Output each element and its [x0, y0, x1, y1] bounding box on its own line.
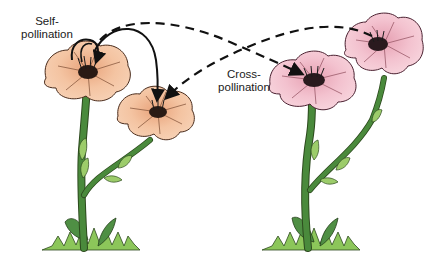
pollination-diagram: Self- pollination Cross- pollination	[0, 0, 444, 267]
cross-pollination-label-line2: pollination	[213, 81, 275, 94]
left-plant	[42, 41, 194, 250]
cross-pollination-label-line1: Cross-	[213, 68, 275, 81]
self-pollination-label-line2: pollination	[16, 28, 78, 41]
cross-pollination-label: Cross- pollination	[213, 68, 275, 94]
left-lower-flower	[117, 86, 194, 140]
left-grass	[42, 228, 140, 250]
self-pollination-label-line1: Self-	[16, 15, 78, 28]
cross-pollination-arrow-to-right	[100, 23, 302, 74]
self-pollination-label: Self- pollination	[16, 15, 78, 41]
left-upper-flower	[44, 41, 130, 101]
right-plant	[262, 13, 423, 250]
right-upper-flower	[344, 13, 423, 74]
right-lower-flower	[269, 51, 356, 110]
